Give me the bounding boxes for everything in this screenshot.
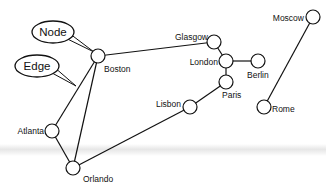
node-label: London bbox=[190, 57, 219, 67]
node-label: Paris bbox=[222, 90, 241, 100]
node-circle[interactable] bbox=[91, 49, 105, 63]
node-circle[interactable] bbox=[66, 161, 80, 175]
node-label: Orlando bbox=[83, 174, 114, 184]
node-circle[interactable] bbox=[251, 54, 265, 68]
node-orlando[interactable]: Orlando bbox=[66, 161, 114, 184]
node-label: Lisbon bbox=[156, 99, 181, 109]
edge-boston-orlando bbox=[73, 56, 98, 168]
node-circle[interactable] bbox=[183, 100, 197, 114]
node-circle[interactable] bbox=[45, 124, 59, 138]
node-label: Boston bbox=[104, 64, 131, 74]
callout-label: Node bbox=[39, 26, 67, 38]
node-rome[interactable]: Rome bbox=[257, 100, 295, 114]
node-circle[interactable] bbox=[219, 54, 233, 68]
node-label: Rome bbox=[272, 104, 295, 114]
callouts-layer: NodeEdge bbox=[15, 21, 94, 86]
callout-edge: Edge bbox=[15, 55, 76, 86]
node-lisbon[interactable]: Lisbon bbox=[156, 99, 197, 114]
node-paris[interactable]: Paris bbox=[219, 75, 241, 100]
callout-label: Edge bbox=[24, 60, 51, 72]
node-london[interactable]: London bbox=[190, 54, 233, 68]
node-circle[interactable] bbox=[306, 10, 320, 24]
edge-boston-glasgow bbox=[98, 42, 214, 56]
node-circle[interactable] bbox=[207, 35, 221, 49]
edge-moscow-rome bbox=[264, 17, 313, 107]
node-label: Glasgow bbox=[175, 32, 209, 42]
graph-diagram: NodeEdge BostonGlasgowLondonBerlinParisL… bbox=[0, 0, 326, 187]
node-berlin[interactable]: Berlin bbox=[247, 54, 269, 80]
node-label: Berlin bbox=[247, 70, 269, 80]
node-moscow[interactable]: Moscow bbox=[273, 10, 320, 24]
callout-node: Node bbox=[32, 21, 94, 52]
edge-orlando-lisbon bbox=[73, 107, 190, 168]
node-label: Moscow bbox=[273, 13, 305, 23]
node-label: Atlanta bbox=[18, 126, 45, 136]
node-atlanta[interactable]: Atlanta bbox=[18, 124, 59, 138]
node-circle[interactable] bbox=[257, 100, 271, 114]
node-circle[interactable] bbox=[219, 75, 233, 89]
